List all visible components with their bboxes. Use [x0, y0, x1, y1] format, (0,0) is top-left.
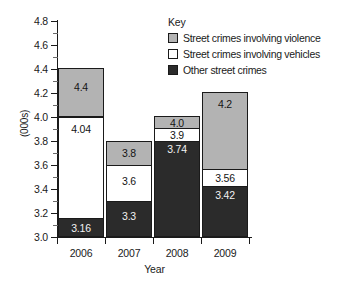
bar-segment-2006-other: 3.16 [58, 218, 104, 237]
x-tick-label-2008: 2008 [153, 247, 201, 259]
x-tick-start [57, 238, 58, 244]
legend-label-other: Other street crimes [183, 65, 267, 76]
x-tick-2008-2009 [201, 238, 202, 244]
y-tick-4.8 [51, 21, 58, 22]
bar-label-2006-vehicles: 4.04 [59, 124, 103, 135]
y-tick-label-4.8: 4.8 [22, 16, 48, 26]
bar-segment-2006-violence: 4.4 [58, 68, 104, 117]
x-tick-2007-2008 [153, 238, 154, 244]
legend-title: Key [168, 16, 340, 28]
y-tick-minor-4.7 [53, 33, 58, 34]
y-tick-3.6 [51, 165, 58, 166]
bar-segment-2007-other: 3.3 [106, 201, 152, 237]
legend-item-vehicles: Street crimes involving vehicles [168, 47, 340, 61]
y-tick-label-3.6: 3.6 [22, 160, 48, 170]
y-tick-4.0 [51, 117, 58, 118]
bar-label-2009-vehicles: 3.56 [203, 173, 247, 184]
x-tick-label-2006: 2006 [57, 247, 105, 259]
y-tick-label-4.4: 4.4 [22, 64, 48, 74]
x-tick-2006-2007 [105, 238, 106, 244]
legend-label-violence: Street crimes involving violence [183, 33, 320, 44]
legend-label-vehicles: Street crimes involving vehicles [183, 49, 320, 60]
bar-label-2006-violence: 4.4 [59, 82, 103, 93]
bar-segment-2008-vehicles: 3.9 [154, 128, 200, 142]
y-tick-4.2 [51, 93, 58, 94]
bar-segment-2007-violence: 3.8 [106, 141, 152, 166]
legend: Key Street crimes involving violence Str… [168, 16, 340, 79]
y-tick-label-4.6: 4.6 [22, 40, 48, 50]
bar-label-2007-other: 3.3 [107, 211, 151, 222]
y-tick-4.6 [51, 45, 58, 46]
legend-swatch-violence-icon [168, 33, 178, 43]
y-tick-3.2 [51, 213, 58, 214]
bar-segment-2009-other: 3.42 [202, 186, 248, 237]
y-tick-4.4 [51, 69, 58, 70]
legend-swatch-vehicles-icon [168, 49, 178, 59]
legend-item-other: Other street crimes [168, 63, 340, 77]
bar-label-2007-violence: 3.8 [107, 148, 151, 159]
bar-segment-2009-violence: 4.2 [202, 92, 248, 170]
y-tick-label-3.2: 3.2 [22, 208, 48, 218]
y-tick-3.8 [51, 141, 58, 142]
y-tick-label-3.4: 3.4 [22, 184, 48, 194]
y-axis-title: (000s) [19, 94, 30, 154]
x-tick-end [249, 238, 250, 244]
legend-swatch-other-icon [168, 65, 178, 75]
stacked-bar-chart: 3.0 3.2 3.4 3.6 3.8 4.0 4.2 4.4 4.6 4.8 … [0, 0, 343, 281]
x-tick-label-2009: 2009 [201, 247, 249, 259]
y-tick-3.4 [51, 189, 58, 190]
bar-label-2009-other: 3.42 [203, 190, 247, 201]
y-tick-minor-4.5 [53, 57, 58, 58]
x-axis-line [57, 237, 252, 238]
bar-label-2007-vehicles: 3.6 [107, 176, 151, 187]
bar-label-2008-other: 3.74 [155, 144, 199, 155]
bar-segment-2008-other: 3.74 [154, 141, 200, 237]
bar-label-2006-other: 3.16 [59, 223, 103, 234]
y-tick-label-3.0: 3.0 [22, 232, 48, 242]
bar-label-2008-vehicles: 3.9 [155, 130, 199, 141]
legend-item-violence: Street crimes involving violence [168, 31, 340, 45]
bar-segment-2009-vehicles: 3.56 [202, 169, 248, 187]
bar-label-2009-violence: 4.2 [203, 99, 247, 110]
x-tick-label-2007: 2007 [105, 247, 153, 259]
x-axis-title: Year [57, 263, 252, 275]
bar-segment-2007-vehicles: 3.6 [106, 165, 152, 202]
bar-segment-2006-vehicles: 4.04 [58, 117, 104, 223]
